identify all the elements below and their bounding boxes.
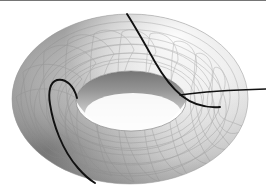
torus-body xyxy=(0,0,266,188)
torus-figure xyxy=(0,0,266,188)
torus-render-canvas xyxy=(0,0,266,188)
